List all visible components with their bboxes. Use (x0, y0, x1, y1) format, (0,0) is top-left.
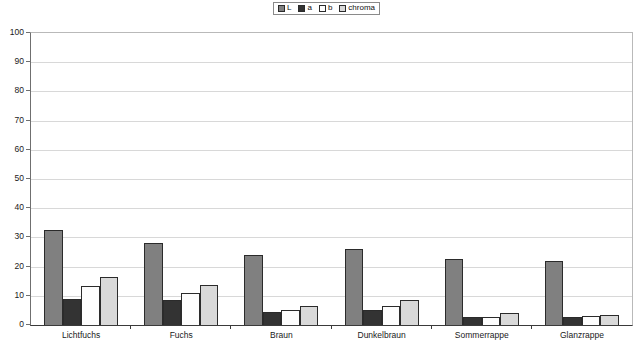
legend-item-chroma[interactable]: chroma (339, 4, 375, 12)
y-axis-tick-label: 60 (0, 145, 24, 154)
legend-label: L (287, 4, 291, 12)
bar-a[interactable] (263, 312, 282, 325)
y-axis-tick-label: 30 (0, 232, 24, 241)
bar-set (445, 32, 519, 325)
x-axis-category-label: Glanzrappe (532, 331, 632, 340)
bar-a[interactable] (563, 317, 582, 325)
y-axis-tick-mark (26, 90, 30, 91)
bar-group (432, 32, 532, 325)
bar-a[interactable] (163, 300, 182, 325)
legend-swatch-icon (278, 5, 285, 12)
x-axis-tick-mark (130, 325, 131, 329)
bar-group (532, 32, 632, 325)
bar-L[interactable] (545, 261, 564, 325)
y-axis-tick-mark (26, 32, 30, 33)
bar-chroma[interactable] (600, 315, 619, 326)
legend-label: a (307, 4, 311, 12)
y-axis-tick-label: 50 (0, 174, 24, 183)
y-axis-tick-label: 100 (0, 28, 24, 37)
bar-b[interactable] (582, 316, 601, 325)
y-axis-tick-mark (26, 149, 30, 150)
bar-chart: Labchroma LichtfuchsFuchsBraunDunkelbrau… (0, 0, 641, 350)
y-axis-tick-mark (26, 266, 30, 267)
x-axis-category-label: Dunkelbraun (332, 331, 432, 340)
bar-b[interactable] (181, 293, 200, 325)
y-axis-tick-mark (26, 236, 30, 237)
x-axis-tick-mark (431, 325, 432, 329)
bar-group (332, 32, 432, 325)
y-axis-tick-label: 20 (0, 261, 24, 270)
x-axis-tick-mark (531, 325, 532, 329)
x-axis-category-label: Fuchs (131, 331, 231, 340)
bar-b[interactable] (382, 306, 401, 325)
bar-a[interactable] (463, 317, 482, 325)
bar-b[interactable] (281, 310, 300, 325)
bar-b[interactable] (482, 317, 501, 325)
bar-set (144, 32, 218, 325)
bar-set (244, 32, 318, 325)
bar-chroma[interactable] (400, 300, 419, 325)
legend-swatch-icon (298, 5, 305, 12)
legend-swatch-icon (339, 5, 346, 12)
x-axis-category-label: Braun (231, 331, 331, 340)
bar-groups (31, 32, 632, 325)
legend-label: b (328, 4, 332, 12)
x-axis-category-label: Sommerrappe (432, 331, 532, 340)
bar-group (131, 32, 231, 325)
y-axis-tick-label: 90 (0, 57, 24, 66)
bar-chroma[interactable] (300, 306, 319, 325)
y-axis-tick-mark (26, 61, 30, 62)
y-axis-tick-mark (26, 207, 30, 208)
x-axis-tick-mark (230, 325, 231, 329)
y-axis-tick-mark (26, 120, 30, 121)
y-axis-tick-label: 0 (0, 320, 24, 329)
bar-a[interactable] (363, 310, 382, 325)
chart-legend: Labchroma (273, 2, 380, 15)
y-axis-tick-mark (26, 324, 30, 325)
bar-chroma[interactable] (500, 313, 519, 325)
legend-item-a[interactable]: a (298, 4, 311, 12)
y-axis-tick-label: 40 (0, 203, 24, 212)
bar-chroma[interactable] (200, 285, 219, 325)
x-axis-category-label: Lichtfuchs (31, 331, 131, 340)
bar-group (31, 32, 131, 325)
x-axis-tick-mark (331, 325, 332, 329)
bar-L[interactable] (445, 259, 464, 325)
bar-a[interactable] (63, 299, 82, 325)
bar-set (345, 32, 419, 325)
y-axis-tick-label: 70 (0, 115, 24, 124)
bar-L[interactable] (144, 243, 163, 325)
bar-set (545, 32, 619, 325)
bar-set (44, 32, 118, 325)
bar-L[interactable] (244, 255, 263, 325)
legend-swatch-icon (319, 5, 326, 12)
y-axis-tick-mark (26, 295, 30, 296)
bar-L[interactable] (345, 249, 364, 325)
legend-item-b[interactable]: b (319, 4, 332, 12)
y-axis-tick-label: 10 (0, 291, 24, 300)
bar-b[interactable] (81, 286, 100, 325)
legend-label: chroma (348, 4, 375, 12)
legend-item-L[interactable]: L (278, 4, 291, 12)
bar-chroma[interactable] (100, 277, 119, 325)
bar-group (231, 32, 331, 325)
y-axis-tick-label: 80 (0, 86, 24, 95)
bar-L[interactable] (44, 230, 63, 325)
x-axis-labels: LichtfuchsFuchsBraunDunkelbraunSommerrap… (31, 331, 632, 340)
y-axis-tick-mark (26, 178, 30, 179)
